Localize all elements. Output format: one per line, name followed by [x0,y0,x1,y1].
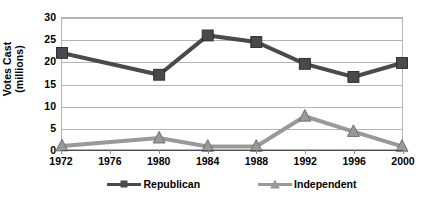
data-point-marker [299,110,311,122]
x-tickmark [403,150,404,154]
legend-item-republican[interactable]: Republican [107,178,200,190]
y-tick-label: 0 [30,145,56,155]
data-point-marker [57,48,68,59]
y-tick-label: 30 [30,12,56,22]
legend-marker [270,180,280,189]
y-tick-label: 5 [30,123,56,133]
series-republican [57,30,408,82]
y-tick-label: 15 [30,79,56,89]
x-tickmark [208,150,209,154]
x-tick-label: 2000 [373,155,424,167]
y-axis-tick-labels: 302520151050 [30,17,56,150]
series-independent [56,110,408,152]
y-tick-label: 25 [30,34,56,44]
data-point-marker [202,30,213,41]
series-canvas [62,18,402,149]
triangle-marker-icon [258,178,292,190]
legend-label: Independent [294,178,356,190]
data-point-marker [154,69,165,80]
x-tickmark [256,150,257,154]
y-tick-label: 10 [30,101,56,111]
data-point-marker [397,58,408,69]
x-tickmark [110,150,111,154]
square-marker-icon [107,178,141,190]
x-tickmark [61,150,62,154]
plot-area [61,17,403,150]
legend-item-independent[interactable]: Independent [258,178,356,190]
x-tickmark [354,150,355,154]
legend-marker [121,181,128,188]
series-line [62,35,402,76]
chart-title-cropped [0,0,424,4]
data-point-marker [251,37,262,48]
x-tickmark [305,150,306,154]
legend-label: Republican [143,178,200,190]
line-chart: Votes Cast (millions) 302520151050 19721… [0,0,424,198]
chart-legend: RepublicanIndependent [61,176,403,192]
x-tickmark [159,150,160,154]
y-axis-title-line-2: (millions) [13,14,25,124]
y-tick-label: 20 [30,56,56,66]
data-point-marker [299,58,310,69]
data-point-marker [348,72,359,83]
y-axis-title-line-1: Votes Cast [1,14,13,124]
x-axis-tick-labels: 19721976198019841988199219962000 [61,150,403,170]
